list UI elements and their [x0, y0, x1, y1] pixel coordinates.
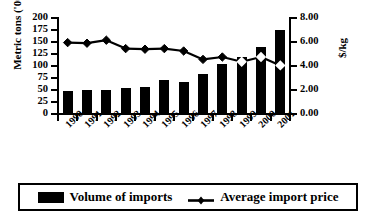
y-axis-left-tick-label: 100 — [32, 60, 48, 70]
chart-legend: Volume of imports Average import price — [18, 183, 358, 211]
data-point-1991 — [83, 39, 91, 47]
y-axis-right-tick-label: 4.00 — [300, 60, 318, 70]
data-point-1996 — [179, 47, 187, 55]
y-axis-left-tick-label: 75 — [38, 72, 49, 82]
chart-container: Metric tons ('000) $/kg 2001751501251007… — [0, 0, 376, 221]
y-axis-left-tick-label: 175 — [32, 24, 48, 34]
y-axis-right-tick-label: 2.00 — [300, 84, 318, 94]
data-point-2000 — [257, 53, 265, 61]
bar-swatch-icon — [38, 192, 64, 203]
data-point-1994 — [141, 45, 149, 53]
y-axis-right-title: $/kg — [336, 18, 348, 78]
data-point-2001 — [276, 61, 284, 69]
y-axis-left-tick-label: 125 — [32, 48, 48, 58]
plot-area — [58, 18, 290, 114]
y-axis-right-tick — [289, 89, 297, 91]
y-axis-left-tick-label: 150 — [32, 36, 48, 46]
y-axis-left-tick-label: 50 — [38, 84, 49, 94]
legend-label-volume: Volume of imports — [70, 189, 173, 205]
legend-item-volume: Volume of imports — [38, 189, 173, 205]
y-axis-right-tick — [289, 17, 297, 19]
diamond-line-swatch-icon — [188, 192, 214, 203]
y-axis-left-tick-label: 0 — [43, 108, 48, 118]
y-axis-right-tick-label: 8.00 — [300, 12, 318, 22]
legend-label-price: Average import price — [220, 189, 338, 205]
data-point-1998 — [218, 53, 226, 61]
y-axis-left-tick-label: 200 — [32, 12, 48, 22]
y-axis-left-tick-label: 25 — [38, 96, 49, 106]
data-point-1995 — [160, 44, 168, 52]
data-point-1992 — [102, 36, 110, 44]
y-axis-right-tick-label: 6.00 — [300, 36, 318, 46]
y-axis-right-tick — [289, 41, 297, 43]
data-point-1997 — [199, 55, 207, 63]
y-axis-right-tick-label: 0.00 — [300, 108, 318, 118]
y-axis-left-title: Metric tons ('000) — [11, 0, 23, 83]
legend-item-price: Average import price — [188, 189, 338, 205]
line-series — [58, 18, 290, 114]
y-axis-right-tick — [289, 65, 297, 67]
data-point-1990 — [63, 38, 71, 46]
data-point-1993 — [121, 44, 129, 52]
data-point-1999 — [237, 58, 245, 66]
x-axis-tick — [57, 114, 59, 121]
